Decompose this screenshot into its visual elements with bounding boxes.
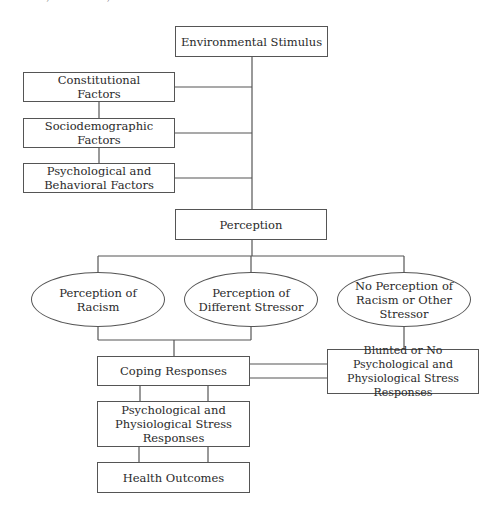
- perception-box: Perception: [175, 209, 327, 240]
- blunted-responses-label: Blunted or No Psychological and Physiolo…: [330, 344, 476, 400]
- environmental-stimulus-box: Environmental Stimulus: [175, 26, 328, 57]
- no-perception-ellipse: No Perception of Racism or Other Stresso…: [337, 272, 471, 327]
- stress-responses-label: Psychological and Physiological Stress R…: [104, 403, 244, 445]
- coping-responses-label: Coping Responses: [120, 364, 227, 378]
- blunted-responses-box: Blunted or No Psychological and Physiolo…: [327, 349, 479, 394]
- stress-responses-box: Psychological and Physiological Stress R…: [97, 401, 250, 447]
- perception-of-racism-ellipse: Perception of Racism: [31, 272, 165, 327]
- perception-of-racism-label: Perception of Racism: [53, 286, 143, 314]
- health-outcomes-box: Health Outcomes: [97, 462, 250, 493]
- health-outcomes-label: Health Outcomes: [123, 471, 224, 485]
- psych-behavioral-factors-box: Psychological and Behavioral Factors: [23, 163, 175, 193]
- sociodemographic-factors-label: Sociodemographic Factors: [44, 119, 154, 147]
- no-perception-label: No Perception of Racism or Other Stresso…: [354, 279, 454, 321]
- constitutional-factors-box: Constitutional Factors: [23, 72, 175, 102]
- environmental-stimulus-label: Environmental Stimulus: [181, 35, 322, 49]
- psych-behavioral-factors-label: Psychological and Behavioral Factors: [29, 164, 169, 192]
- perception-of-different-stressor-ellipse: Perception of Different Stressor: [184, 272, 318, 327]
- constitutional-factors-label: Constitutional Factors: [54, 73, 144, 101]
- sociodemographic-factors-box: Sociodemographic Factors: [23, 118, 175, 148]
- perception-of-different-stressor-label: Perception of Different Stressor: [194, 286, 309, 314]
- coping-responses-box: Coping Responses: [97, 356, 250, 386]
- perception-label: Perception: [220, 218, 283, 232]
